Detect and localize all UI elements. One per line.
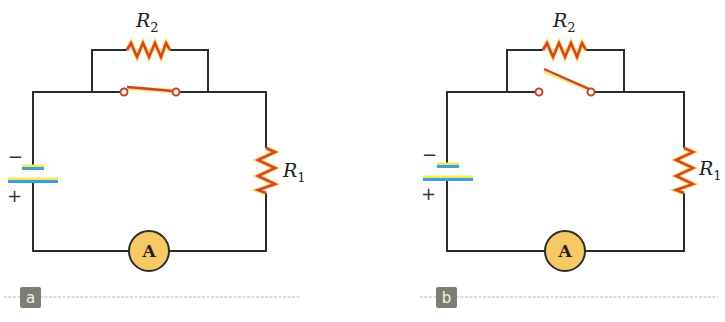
wire-left-b <box>447 92 536 166</box>
battery-negative-sign-b: − <box>422 144 437 165</box>
ammeter-label-a: A <box>141 241 156 261</box>
switch-contact-right-a <box>173 89 180 96</box>
switch-contact-left-b <box>536 89 543 96</box>
wire-left-lower-a <box>33 181 129 251</box>
panel-tag-label-a: a <box>26 289 35 307</box>
switch-contact-left-a <box>121 89 128 96</box>
wire-bottom-right-a <box>169 193 266 251</box>
resistor-r2-a <box>127 43 170 57</box>
ammeter-label-b: A <box>557 241 572 261</box>
battery-positive-sign-a: + <box>7 185 22 206</box>
battery-negative-sign-a: − <box>8 146 23 167</box>
label-r1-b: R1 <box>698 157 722 183</box>
ammeter-a: A <box>129 231 169 271</box>
ammeter-b: A <box>545 231 585 271</box>
circuit-panel-a: − + A R2 R1 a <box>4 9 306 308</box>
wire-right-a <box>176 92 266 148</box>
circuit-figure: − + A R2 R1 a <box>0 0 725 322</box>
label-r2-b: R2 <box>552 9 576 35</box>
switch-contact-right-b <box>588 89 595 96</box>
resistor-r2-b <box>543 43 586 57</box>
wire-left-lower-b <box>447 179 545 251</box>
resistor-r1-b <box>676 148 693 193</box>
label-r2-a: R2 <box>135 9 159 35</box>
wire-bottom-right-b <box>585 193 684 251</box>
battery-positive-sign-b: + <box>421 183 436 204</box>
wire-left-a <box>33 92 124 168</box>
wire-right-b <box>594 92 684 148</box>
switch-closed-a <box>121 87 180 96</box>
label-r1-a: R1 <box>282 159 306 185</box>
panel-tag-label-b: b <box>442 289 452 307</box>
switch-open-b <box>536 69 595 96</box>
circuit-panel-b: − + A R2 R1 b <box>420 9 722 308</box>
resistor-r1-a <box>258 148 275 193</box>
